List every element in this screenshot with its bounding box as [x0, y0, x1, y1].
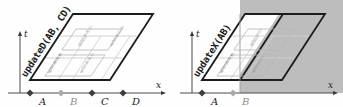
t-axis-label-left: t — [24, 29, 28, 39]
point-label-B-left: B — [69, 96, 77, 107]
axis-point-B-left[interactable] — [58, 90, 65, 97]
svg-text:updateD(AB, CD): updateD(AB, CD) — [18, 3, 73, 78]
cell-label-bottom-0-left: updateD(A,B) — [47, 52, 64, 74]
updateX-panel: t x — [172, 0, 343, 107]
t-axis-label-right: t — [196, 29, 200, 39]
axis-point-D-left[interactable] — [120, 90, 127, 97]
axis-point-C-left[interactable] — [89, 90, 96, 97]
axis-point-A-right[interactable] — [199, 90, 206, 97]
t-axis-left — [18, 31, 22, 93]
updateD-panel: t x — [0, 0, 172, 107]
point-label-A-right: A — [210, 96, 218, 107]
axis-point-A-left[interactable] — [27, 90, 34, 97]
x-axis-label-right: x — [328, 80, 333, 90]
point-label-A-left: A — [38, 96, 46, 107]
t-axis-right — [190, 31, 194, 93]
figure-canvas: t x — [0, 0, 343, 107]
point-label-D-left: D — [131, 96, 140, 107]
x-axis-label-left: x — [156, 80, 161, 90]
point-label-C-left: C — [101, 96, 109, 107]
axis-point-B-right[interactable] — [230, 90, 237, 97]
svg-text:updateD(A,B): updateD(A,B) — [47, 52, 64, 74]
point-label-B-right: B — [241, 96, 249, 107]
main-label-left: updateD(AB, CD) — [18, 3, 73, 78]
